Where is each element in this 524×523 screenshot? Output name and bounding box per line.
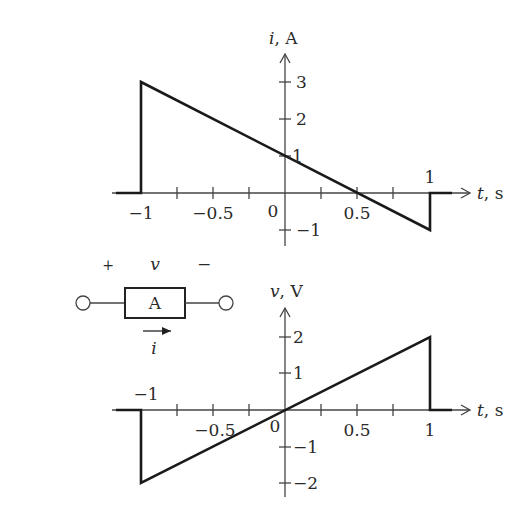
x-axis-label: t, s xyxy=(477,400,503,420)
x-tick-label: 1 xyxy=(425,420,436,440)
plus-sign: + xyxy=(102,257,114,273)
x-tick-label: 0.5 xyxy=(343,420,370,440)
y-tick-label: 2 xyxy=(293,327,304,347)
x-axis-label: t, s xyxy=(477,183,503,203)
current-waveform xyxy=(116,82,452,230)
x-tick-label: −0.5 xyxy=(194,420,235,440)
right-terminal-icon xyxy=(219,296,233,310)
origin-label: 0 xyxy=(268,201,279,221)
current-label: i xyxy=(151,338,156,358)
y-axis-label: i, A xyxy=(269,28,298,48)
y-axis-label: v, V xyxy=(270,281,303,301)
y-tick-label: −2 xyxy=(293,473,318,493)
y-tick-label: −1 xyxy=(296,220,321,240)
y-tick-label: 2 xyxy=(296,109,307,129)
x-tick-label: −1 xyxy=(128,203,153,223)
origin-label: 0 xyxy=(270,416,281,436)
y-tick-label: 1 xyxy=(292,146,303,166)
x-tick-label: −0.5 xyxy=(192,203,233,223)
y-tick-label: 3 xyxy=(296,72,307,92)
x-tick-label: 1 xyxy=(425,167,436,187)
left-terminal-icon xyxy=(76,296,90,310)
x-tick-label: 0.5 xyxy=(343,203,370,223)
y-tick-label: 1 xyxy=(293,363,304,383)
element-label: A xyxy=(148,293,162,313)
y-tick-label: −1 xyxy=(293,437,318,457)
minus-sign: − xyxy=(197,254,211,274)
figure: i, A t, s −1 −0.5 0 0.5 1 3 2 1 −1 + v −… xyxy=(0,0,524,523)
voltage-label: v xyxy=(150,254,160,274)
x-tick-label: −1 xyxy=(133,384,158,404)
circuit-element: + v − A i xyxy=(76,254,233,358)
current-chart: i, A t, s −1 −0.5 0 0.5 1 3 2 1 −1 xyxy=(112,28,503,246)
